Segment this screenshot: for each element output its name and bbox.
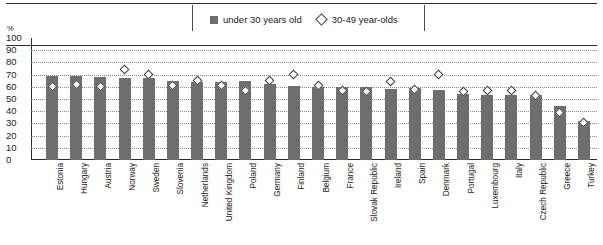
- x-tick-label-germany: Germany: [273, 163, 282, 197]
- bar-finland: [288, 86, 300, 160]
- y-tick-label-80: 80: [6, 57, 17, 66]
- x-tick-label-portugal: Portugal: [467, 163, 476, 194]
- bar-czech-republic: [530, 95, 542, 160]
- bar-netherlands: [191, 82, 203, 160]
- bar-portugal: [457, 94, 469, 160]
- x-tick-label-spain: Spain: [418, 163, 427, 184]
- y-tick-label-20: 20: [6, 131, 17, 140]
- x-tick-label-netherlands: Netherlands: [201, 163, 210, 207]
- x-tick-label-greece: Greece: [563, 163, 572, 190]
- x-tick-label-luxembourg: Luxembourg: [491, 163, 500, 209]
- bar-germany: [264, 84, 276, 160]
- bar-belgium: [312, 87, 324, 160]
- bar-ireland: [385, 89, 397, 160]
- gridline-80: [31, 62, 597, 63]
- bar-united-kingdom: [215, 82, 227, 160]
- x-tick-label-france: France: [346, 163, 355, 188]
- y-tick-label-50: 50: [6, 94, 17, 103]
- chart-figure: under 30 years old30-49 year-olds % 1009…: [0, 0, 603, 245]
- x-tick-label-denmark: Denmark: [442, 163, 451, 196]
- x-tick-label-turkey: Turkey: [587, 163, 596, 188]
- y-tick-label-90: 90: [6, 45, 17, 54]
- plot-area: [31, 38, 597, 160]
- marker-ireland: [386, 77, 396, 87]
- x-tick-label-estonia: Estonia: [56, 163, 65, 190]
- x-tick-label-poland: Poland: [249, 163, 258, 189]
- legend-item-2: 30-49 year-olds: [316, 14, 398, 25]
- y-tick-label-0: 0: [6, 155, 11, 164]
- x-tick-label-finland: Finland: [297, 163, 306, 190]
- x-tick-label-norway: Norway: [128, 163, 137, 191]
- bar-slovenia: [167, 81, 179, 160]
- x-tick-label-sweden: Sweden: [152, 163, 161, 193]
- bar-france: [336, 87, 348, 160]
- bar-luxembourg: [481, 95, 493, 160]
- top-border-rule: [6, 3, 597, 4]
- x-axis-category-labels: EstoniaHungaryAustriaNorwaySwedenSloveni…: [31, 163, 597, 243]
- bar-spain: [409, 88, 421, 160]
- x-tick-label-italy: Italy: [515, 163, 524, 178]
- x-tick-label-slovak-republic: Slovak Republic: [370, 163, 379, 222]
- bar-slovak-republic: [360, 87, 372, 160]
- y-tick-label-40: 40: [6, 106, 17, 115]
- x-tick-label-hungary: Hungary: [80, 163, 89, 194]
- y-tick-label-10: 10: [6, 143, 17, 152]
- x-tick-label-slovenia: Slovenia: [176, 163, 185, 194]
- gridline-90: [31, 50, 597, 51]
- bar-italy: [505, 95, 517, 160]
- legend-item-1: under 30 years old: [210, 14, 302, 25]
- bar-denmark: [433, 90, 445, 160]
- legend-square-icon: [210, 16, 218, 24]
- x-tick-label-belgium: Belgium: [322, 163, 331, 193]
- y-tick-label-100: 100: [6, 33, 22, 42]
- bar-sweden: [143, 78, 155, 160]
- marker-norway: [120, 65, 130, 75]
- chart-legend: under 30 years old30-49 year-olds: [192, 5, 424, 33]
- marker-finland: [289, 70, 299, 80]
- legend-diamond-icon: [315, 13, 328, 26]
- y-tick-label-60: 60: [6, 82, 17, 91]
- y-tick-label-30: 30: [6, 118, 17, 127]
- legend-separator-right: [424, 5, 425, 31]
- y-tick-label-70: 70: [6, 70, 17, 79]
- bar-norway: [119, 78, 131, 160]
- marker-denmark: [434, 70, 444, 80]
- legend-label: 30-49 year-olds: [332, 14, 398, 25]
- x-tick-label-czech-republic: Czech Republic: [539, 163, 548, 220]
- gridline-70: [31, 75, 597, 76]
- x-tick-label-austria: Austria: [104, 163, 113, 188]
- legend-label: under 30 years old: [223, 14, 302, 25]
- x-tick-label-united-kingdom: United Kingdom: [225, 163, 234, 221]
- x-tick-label-ireland: Ireland: [394, 163, 403, 188]
